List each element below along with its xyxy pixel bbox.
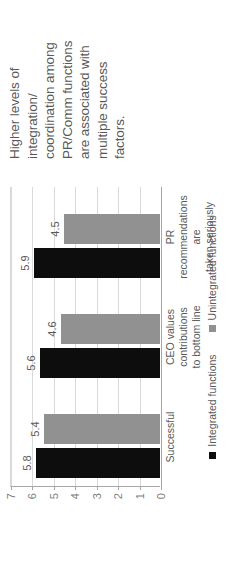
y-tick-mark (118, 486, 119, 490)
y-tick-mark (97, 486, 98, 490)
category-label-line: CEO values contributions (164, 287, 190, 387)
bar[interactable]: 5.8 (36, 448, 160, 478)
bar-value-label: 4.6 (46, 321, 58, 336)
bar-value-label: 5.6 (25, 355, 37, 370)
bar-group: 5.94.5 (11, 186, 160, 286)
figure-title: Higher levels of integration/ coordinati… (6, 7, 129, 159)
y-tick-label: 2 (112, 493, 124, 499)
y-tick-label: 7 (5, 493, 17, 499)
y-tick-mark (32, 486, 33, 490)
bar-group: 5.64.6 (11, 286, 160, 386)
legend: Integrated functions Unintegrated functi… (206, 187, 218, 487)
bar-group: 5.85.4 (11, 386, 160, 486)
title-line: PR/Comm functions (59, 7, 77, 159)
bar[interactable]: 5.9 (34, 248, 160, 278)
figure: Higher levels of integration/ coordinati… (0, 0, 237, 565)
legend-swatch-icon (209, 452, 216, 459)
category-label-line: to bottom line (190, 287, 203, 387)
bar[interactable]: 4.5 (64, 214, 160, 244)
legend-label: Integrated functions (206, 354, 218, 446)
bar-value-label: 5.8 (21, 455, 33, 470)
legend-item-integrated[interactable]: Integrated functions (206, 354, 218, 458)
y-tick-label: 6 (26, 493, 38, 499)
bar[interactable]: 4.6 (61, 314, 160, 344)
legend-swatch-icon (209, 325, 216, 332)
bar-chart: 765432105.85.45.64.65.94.5 Successful CE… (0, 165, 237, 565)
bar-value-label: 4.5 (49, 221, 61, 236)
bar[interactable]: 5.6 (40, 348, 160, 378)
rotated-figure-frame: Higher levels of integration/ coordinati… (0, 0, 237, 565)
y-tick-mark (161, 486, 162, 490)
y-tick-mark (140, 486, 141, 490)
y-tick-mark (54, 486, 55, 490)
bar[interactable]: 5.4 (44, 414, 160, 444)
title-line: coordination among (41, 7, 59, 159)
y-tick-label: 1 (134, 493, 146, 499)
title-line: Higher levels of (6, 7, 24, 159)
category-label-line: Successful (164, 387, 177, 487)
bar-value-label: 5.9 (19, 255, 31, 270)
y-tick-label: 4 (69, 493, 81, 499)
legend-item-unintegrated[interactable]: Unintegrated functions (206, 215, 218, 332)
category-label-1: CEO values contributions to bottom line (164, 287, 203, 387)
title-line: integration/ (24, 7, 42, 159)
title-line: multiple success (94, 7, 112, 159)
gridline (161, 187, 162, 486)
bar-value-label: 5.4 (29, 421, 41, 436)
y-tick-mark (75, 486, 76, 490)
title-line: are associated with (76, 7, 94, 159)
category-label-line: PR recommendations are (164, 187, 203, 287)
plot-area: 765432105.85.45.64.65.94.5 (10, 187, 160, 487)
category-label-0: Successful (164, 387, 177, 487)
y-tick-mark (11, 486, 12, 490)
y-tick-label: 5 (48, 493, 60, 499)
y-tick-label: 3 (91, 493, 103, 499)
title-line: factors. (111, 7, 129, 159)
y-tick-label: 0 (155, 493, 167, 499)
legend-label: Unintegrated functions (206, 215, 218, 320)
